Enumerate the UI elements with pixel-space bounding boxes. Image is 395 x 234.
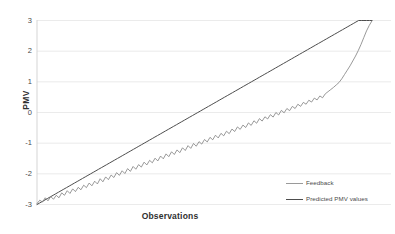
chart-legend: Feedback Predicted PMV values	[286, 176, 391, 208]
legend-item-feedback[interactable]: Feedback	[286, 176, 391, 189]
y-axis-tick-label: -1	[14, 139, 32, 147]
chart-container: 3210-1-2-3 PMV Observations Feedback Pre…	[0, 0, 395, 234]
legend-item-predicted-pmv-values[interactable]: Predicted PMV values	[286, 192, 391, 205]
y-axis-tick-label: 2	[14, 47, 32, 55]
y-axis-tick-label: -2	[14, 170, 32, 178]
legend-label-predicted-pmv-values: Predicted PMV values	[306, 195, 368, 202]
y-axis-tick-label: -3	[14, 201, 32, 209]
legend-swatch-feedback	[286, 180, 303, 186]
y-axis-tick-label: 3	[14, 17, 32, 25]
x-axis-title: Observations	[0, 211, 340, 221]
y-axis-title: PMV	[21, 78, 31, 122]
legend-label-feedback: Feedback	[306, 179, 334, 186]
legend-swatch-predicted-pmv-values	[286, 196, 303, 202]
